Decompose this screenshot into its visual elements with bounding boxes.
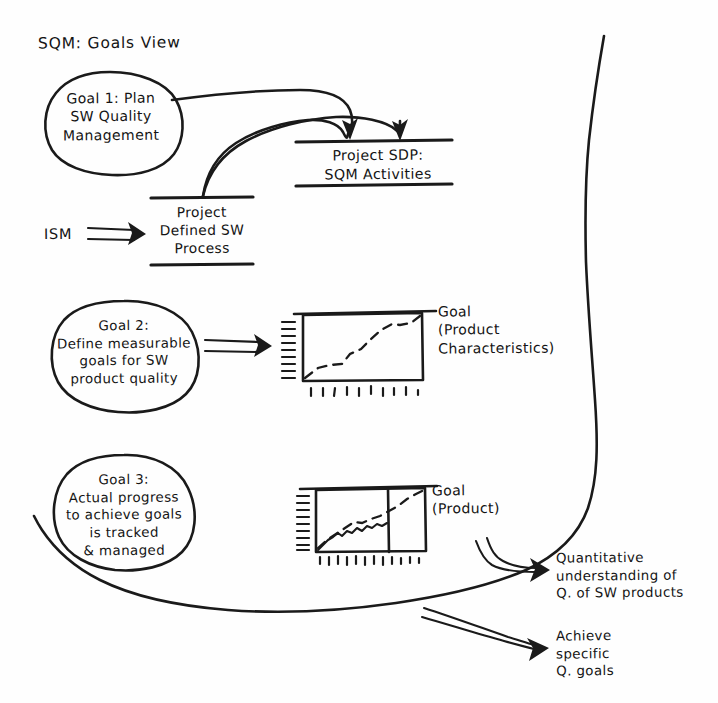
arrow-ism-head bbox=[128, 222, 146, 245]
project-defined-sw-process-top-rule bbox=[151, 197, 253, 198]
project-sdp-label: Project SDP: SQM Activities bbox=[302, 145, 454, 184]
arrow-outcome-2-head bbox=[527, 638, 549, 661]
arrow-outcome-1-line-lower bbox=[487, 538, 536, 568]
goal-1-label: Goal 1: Plan SW Quality Management bbox=[48, 88, 174, 145]
outcome-2-label: Achieve specific Q. goals bbox=[556, 626, 676, 680]
chart-2-series-actual bbox=[318, 523, 387, 550]
arrow-goal2-head bbox=[254, 334, 272, 357]
project-sdp-bottom-rule bbox=[296, 184, 452, 186]
arrow-outcome-2-line-lower bbox=[422, 617, 534, 649]
goal-2-label: Goal 2: Define measurable goals for SW p… bbox=[50, 316, 199, 388]
arrow-outcome-2-line-upper bbox=[424, 608, 534, 645]
project-defined-sw-process-bottom-rule bbox=[151, 264, 253, 265]
project-defined-sw-process-label: Project Defined SW Process bbox=[152, 203, 252, 258]
chart-1-label: Goal (Product Characteristics) bbox=[438, 301, 568, 358]
arrow-goal2-line-upper bbox=[205, 340, 258, 342]
chart-1-y-axis-ticks bbox=[282, 322, 295, 378]
chart-1-series-planned bbox=[305, 316, 420, 378]
diagram-canvas: SQM: Goals View Goal 1: Plan SW Quality … bbox=[0, 0, 718, 703]
page-title: SQM: Goals View bbox=[38, 32, 181, 54]
chart-1-x-axis-ticks bbox=[311, 386, 418, 396]
chart-2-current-time-divider bbox=[388, 489, 389, 552]
arrow-ism-line-upper bbox=[88, 228, 134, 230]
arrow-goal1-to-sdp-curve bbox=[172, 90, 352, 134]
ism-label: ISM bbox=[44, 225, 73, 244]
arrow-goal2-line-lower bbox=[205, 351, 258, 352]
chart-2-series-plan bbox=[318, 490, 424, 548]
outcome-1-label: Quantitative understanding of Q. of SW p… bbox=[556, 548, 716, 602]
goal-3-label: Goal 3: Actual progress to achieve goals… bbox=[58, 470, 191, 560]
chart-2-label: Goal (Product) bbox=[432, 480, 552, 518]
chart-2-x-axis-ticks bbox=[320, 556, 419, 565]
project-sdp-top-rule bbox=[296, 140, 452, 142]
chart-2-y-axis-ticks bbox=[297, 496, 309, 550]
chart-2-plot-box bbox=[316, 488, 426, 552]
arrow-ism-line-lower bbox=[88, 239, 134, 240]
